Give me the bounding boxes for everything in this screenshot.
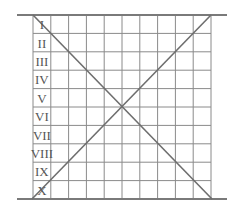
grid-diagram: IIIIIIIVVVIVIIVIIIIXX	[0, 0, 241, 218]
row-label: IX	[35, 164, 49, 179]
row-label: X	[37, 183, 47, 198]
row-label: III	[35, 54, 48, 69]
row-label: VIII	[31, 146, 53, 161]
row-label: I	[40, 17, 44, 32]
row-label: VI	[35, 109, 49, 124]
row-label: V	[37, 91, 47, 106]
row-label: II	[38, 36, 47, 51]
row-label: VII	[33, 128, 51, 143]
row-label: IV	[35, 72, 49, 87]
